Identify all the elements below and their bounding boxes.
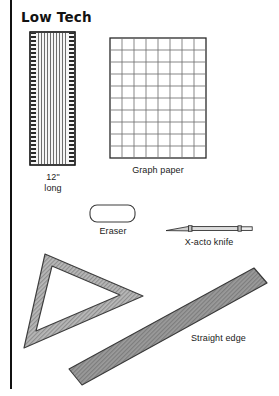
- ruler-icon: [30, 32, 75, 165]
- xacto-knife-label: X-acto knife: [163, 237, 255, 248]
- straight-edge-label: Straight edge: [191, 333, 246, 344]
- graph-paper-label: Graph paper: [110, 165, 206, 176]
- knife-icon: [166, 226, 252, 232]
- grid-icon: [110, 38, 206, 158]
- ruler-label-line2: long: [27, 183, 79, 194]
- ruler-label-line1: 12": [27, 172, 79, 183]
- eraser-icon: [90, 205, 135, 222]
- triangle-icon: [24, 254, 143, 348]
- eraser-label: Eraser: [87, 226, 139, 237]
- diagram-page: Low Tech: [0, 0, 279, 396]
